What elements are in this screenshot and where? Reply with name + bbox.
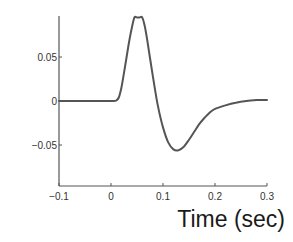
- waveform-line: [59, 17, 267, 151]
- line-chart: 0.050−0.05 −0.100.10.20.3 Time (sec): [0, 0, 293, 242]
- y-tick-label: 0.05: [38, 52, 58, 63]
- y-tick-label: −0.05: [32, 140, 58, 151]
- y-tick-label: 0: [51, 96, 57, 107]
- y-ticks: 0.050−0.05: [32, 52, 62, 151]
- plot-area: 0.050−0.05 −0.100.10.20.3: [32, 16, 275, 202]
- x-tick-label: 0.2: [208, 191, 222, 202]
- x-tick-label: 0: [108, 191, 114, 202]
- x-tick-label: 0.1: [156, 191, 170, 202]
- x-axis-label: Time (sec): [177, 206, 285, 232]
- x-tick-label: −0.1: [49, 191, 69, 202]
- x-tick-label: 0.3: [260, 191, 274, 202]
